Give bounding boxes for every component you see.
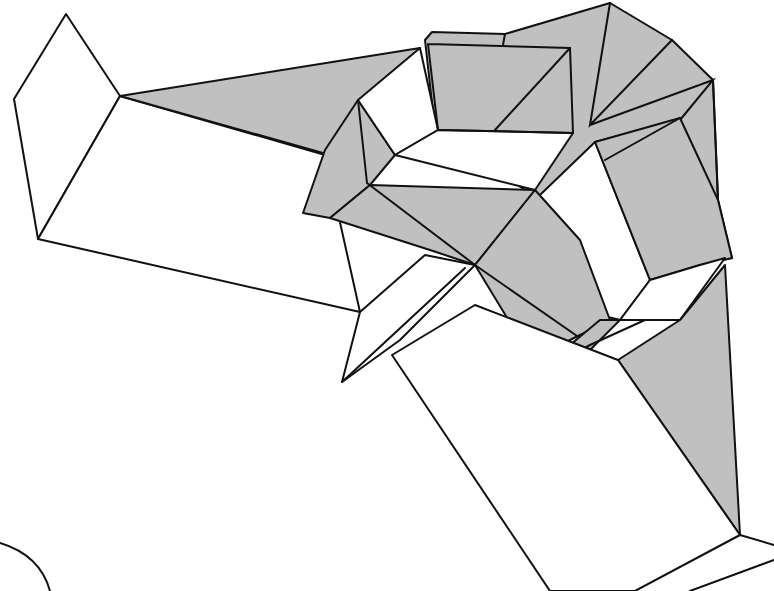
fold-drawing (0, 0, 774, 591)
origami-diagram (0, 0, 774, 591)
arc (0, 543, 50, 591)
